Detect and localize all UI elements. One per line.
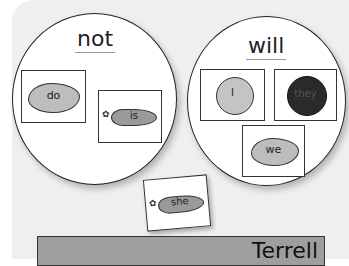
word-card-she[interactable]: ✿ she bbox=[143, 174, 211, 231]
word-card-I[interactable]: I bbox=[200, 69, 265, 121]
card-word: do bbox=[22, 89, 85, 102]
card-word: I bbox=[201, 87, 264, 98]
student-name: Terrell bbox=[252, 238, 318, 263]
card-word: we bbox=[243, 143, 304, 156]
sort-circle-not[interactable]: not do ✿ is bbox=[12, 13, 177, 185]
circle-heading-not: not bbox=[75, 28, 115, 53]
circle-heading-will: will bbox=[246, 35, 286, 60]
card-word: they bbox=[275, 88, 336, 99]
sort-circle-will[interactable]: will I they we bbox=[187, 16, 346, 186]
word-card-they[interactable]: they bbox=[274, 69, 337, 121]
card-word: is bbox=[107, 110, 161, 121]
name-plate: Terrell bbox=[37, 236, 325, 266]
word-card-do[interactable]: do bbox=[21, 70, 86, 123]
word-card-we[interactable]: we bbox=[242, 125, 305, 177]
word-card-is[interactable]: ✿ is bbox=[98, 90, 162, 143]
